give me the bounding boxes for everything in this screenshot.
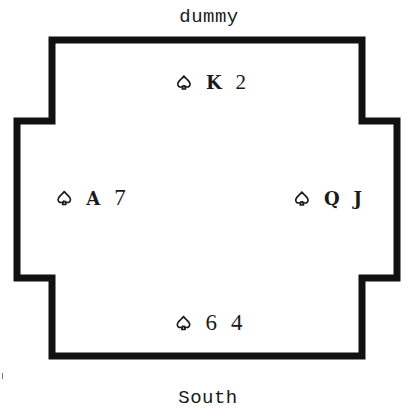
card-west-1: 7 bbox=[114, 185, 126, 211]
spade-outline-icon bbox=[176, 315, 192, 331]
card-north-0: K bbox=[206, 72, 222, 93]
card-north-1: 2 bbox=[236, 70, 247, 95]
spade-outline-icon bbox=[294, 190, 310, 206]
south-hand: 6 4 bbox=[176, 310, 243, 336]
bridge-deal-diagram: dummy K 2 A 7 Q J bbox=[0, 0, 415, 416]
north-hand: K 2 bbox=[176, 70, 246, 95]
card-east-1: J bbox=[354, 188, 363, 209]
spade-outline-icon bbox=[176, 74, 192, 90]
scan-artifact bbox=[2, 373, 3, 379]
north-seat-label: dummy bbox=[179, 6, 239, 28]
spade-outline-icon bbox=[56, 190, 72, 206]
card-south-1: 4 bbox=[231, 310, 243, 336]
card-east-0: Q bbox=[324, 188, 340, 209]
card-west-0: A bbox=[86, 188, 100, 209]
west-hand: A 7 bbox=[56, 185, 125, 211]
card-south-0: 6 bbox=[206, 310, 218, 336]
east-hand: Q J bbox=[294, 188, 362, 209]
south-seat-label: South bbox=[178, 387, 238, 409]
